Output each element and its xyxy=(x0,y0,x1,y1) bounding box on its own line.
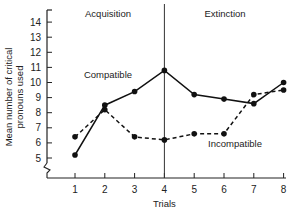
y-tick-label: 10 xyxy=(30,77,42,88)
y-tick-label: 11 xyxy=(31,62,42,73)
data-point xyxy=(221,131,227,137)
data-point xyxy=(132,89,138,95)
data-point xyxy=(281,87,287,93)
y-tick-label: 9 xyxy=(35,92,41,103)
data-point xyxy=(102,107,108,113)
phase-label-acquisition: Acquisition xyxy=(85,8,131,19)
line-chart: 56789101112131412345678AcquisitionExtinc… xyxy=(0,0,291,212)
x-axis-label: Trials xyxy=(153,198,176,209)
x-tick-label: 6 xyxy=(221,184,227,195)
data-point xyxy=(132,134,138,140)
phase-label-extinction: Extinction xyxy=(204,8,245,19)
data-point xyxy=(162,137,168,143)
y-tick-label: 8 xyxy=(35,107,41,118)
y-tick-label: 13 xyxy=(30,32,42,43)
axis-break-icon xyxy=(44,163,50,178)
y-tick-label: 6 xyxy=(35,137,41,148)
data-point xyxy=(72,134,78,140)
data-point xyxy=(221,96,227,102)
x-tick-label: 1 xyxy=(72,184,78,195)
y-tick-label: 7 xyxy=(35,122,41,133)
data-point xyxy=(281,80,287,86)
data-point xyxy=(251,101,257,107)
data-point xyxy=(191,92,197,98)
data-point xyxy=(191,131,197,137)
data-point xyxy=(251,92,257,98)
y-tick-label: 12 xyxy=(30,47,42,58)
y-tick-label: 14 xyxy=(30,17,42,28)
x-tick-label: 3 xyxy=(132,184,138,195)
x-tick-label: 7 xyxy=(251,184,257,195)
x-tick-label: 8 xyxy=(281,184,287,195)
x-tick-label: 5 xyxy=(191,184,197,195)
data-point xyxy=(72,152,78,158)
series-incompatible xyxy=(72,87,286,142)
label-incompatible: Incompatible xyxy=(208,138,262,149)
label-compatible: Compatible xyxy=(84,69,132,80)
y-axis-label: Mean number of criticalpronouns used xyxy=(3,48,25,147)
x-tick-label: 4 xyxy=(162,184,168,195)
data-point xyxy=(162,68,168,74)
y-tick-label: 5 xyxy=(35,153,41,164)
x-tick-label: 2 xyxy=(102,184,108,195)
